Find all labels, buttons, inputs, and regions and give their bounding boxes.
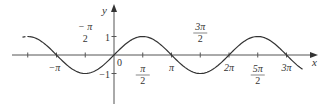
x-tick-label: 5π2 bbox=[251, 63, 265, 86]
x-tick-label: −π bbox=[49, 62, 62, 73]
svg-text:π: π bbox=[140, 63, 146, 74]
sine-graph: −π− π2π2π3π22π5π23π 1−1 x y 0 bbox=[0, 0, 329, 109]
y-axis-arrow-icon bbox=[111, 4, 117, 12]
svg-text:3π: 3π bbox=[194, 21, 206, 32]
x-axis-label: x bbox=[311, 56, 317, 68]
sine-curve-dashed-segment bbox=[22, 37, 29, 38]
svg-text:π: π bbox=[169, 62, 175, 73]
x-tick-label: π bbox=[169, 62, 175, 73]
x-tick-label: π2 bbox=[136, 63, 150, 86]
x-tick-label: 3π bbox=[280, 62, 292, 73]
svg-text:−π: −π bbox=[49, 62, 62, 73]
x-tick-label: − π2 bbox=[78, 21, 93, 44]
svg-text:2: 2 bbox=[140, 75, 145, 86]
y-tick-label: −1 bbox=[99, 69, 110, 80]
svg-text:2π: 2π bbox=[224, 62, 235, 73]
svg-text:2: 2 bbox=[198, 33, 203, 44]
svg-text:3π: 3π bbox=[280, 62, 292, 73]
x-tick-label: 2π bbox=[224, 62, 235, 73]
y-tick-label: 1 bbox=[105, 32, 110, 43]
svg-text:2: 2 bbox=[83, 33, 88, 44]
svg-text:2: 2 bbox=[255, 75, 260, 86]
x-tick-label: 3π2 bbox=[193, 21, 207, 44]
svg-text:− π: − π bbox=[78, 21, 93, 32]
origin-label: 0 bbox=[117, 57, 122, 68]
x-ticks: −π− π2π2π3π22π5π23π bbox=[28, 21, 293, 86]
y-axis-label: y bbox=[101, 4, 107, 16]
svg-text:5π: 5π bbox=[253, 63, 264, 74]
